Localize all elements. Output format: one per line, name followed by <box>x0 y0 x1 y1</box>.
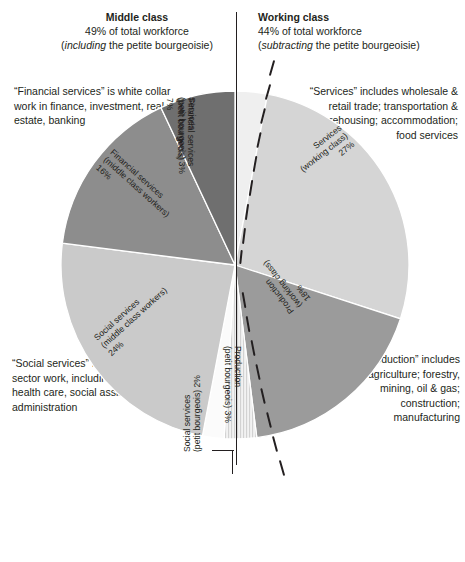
middle-class-qualifier-rest: the petite bourgeoisie) <box>106 39 213 51</box>
social-pb-leader-tick <box>232 450 233 474</box>
working-class-percent: 44% of total workforce <box>258 24 458 38</box>
working-class-qualifier: (subtracting the petite bourgeoisie) <box>258 38 458 52</box>
middle-class-qualifier: (including the petite bourgeoisie) <box>28 38 246 52</box>
working-class-qualifier-rest: the petite bourgeoisie) <box>313 39 420 51</box>
divider-dash-16 <box>279 460 285 476</box>
middle-class-qualifier-emph: including <box>65 39 106 51</box>
working-class-title: Working class <box>258 10 458 24</box>
social-pb-leader-bar <box>212 450 234 451</box>
working-class-qualifier-emph: subtracting <box>262 39 313 51</box>
working-class-header: Working class 44% of total workforce (su… <box>258 10 458 52</box>
divider-dash-0 <box>269 60 275 76</box>
middle-class-percent: 49% of total workforce <box>28 24 246 38</box>
pie-label-financial-pb: Financial services (petit bourgeois) 7% <box>165 98 196 166</box>
middle-class-title: Middle class <box>28 10 246 24</box>
pie-label-production-pb: Production (petit bourgeois) 3% <box>222 346 243 423</box>
middle-class-header: Middle class 49% of total workforce (inc… <box>28 10 246 52</box>
header-class-divider <box>236 12 237 60</box>
pie-label-social-pb: Social services (petit bourgeois) 2% <box>182 375 203 452</box>
class-divider-solid <box>236 60 237 465</box>
